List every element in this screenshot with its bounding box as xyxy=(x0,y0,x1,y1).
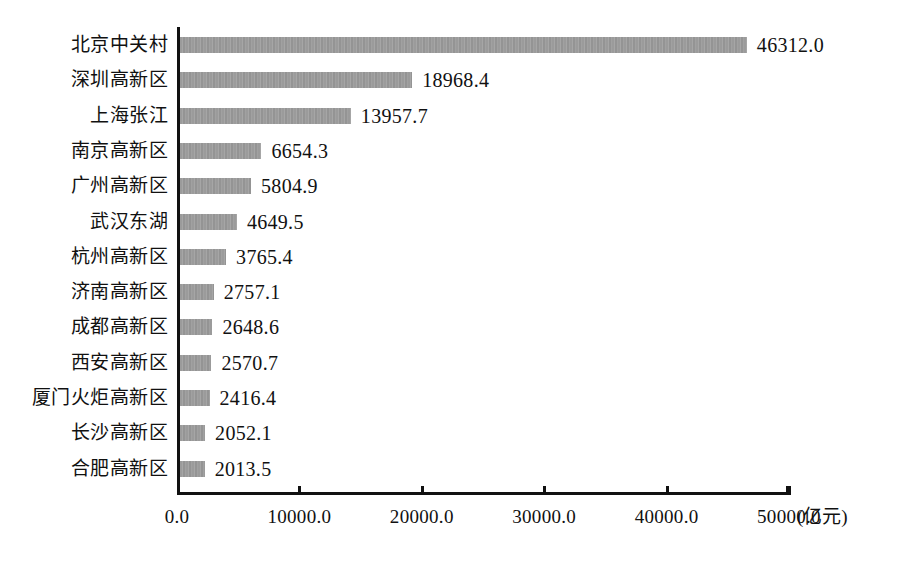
bar-value-label: 2757.1 xyxy=(224,277,281,307)
category-label: 长沙高新区 xyxy=(0,418,168,448)
bar-value-label: 2570.7 xyxy=(221,348,278,378)
category-label: 济南高新区 xyxy=(0,277,168,307)
bar-row: 广州高新区5804.9 xyxy=(0,171,904,201)
bar-value-label: 2052.1 xyxy=(215,418,272,448)
bar-row: 成都高新区2648.6 xyxy=(0,312,904,342)
bar-row: 北京中关村46312.0 xyxy=(0,30,904,60)
bar-row: 合肥高新区2013.5 xyxy=(0,454,904,484)
category-label: 厦门火炬高新区 xyxy=(0,383,168,413)
bar-value-label: 4649.5 xyxy=(247,207,304,237)
plot-area: 北京中关村46312.0深圳高新区18968.4上海张江13957.7南京高新区… xyxy=(0,0,904,566)
bar xyxy=(180,72,412,88)
bar xyxy=(180,284,214,300)
category-label: 广州高新区 xyxy=(0,171,168,201)
x-axis-tick xyxy=(421,486,424,495)
bar-value-label: 2013.5 xyxy=(215,454,272,484)
category-label: 北京中关村 xyxy=(0,30,168,60)
bar-value-label: 2648.6 xyxy=(222,312,279,342)
x-axis-tick-label: 30000.0 xyxy=(512,505,576,529)
x-axis-tick-label: 20000.0 xyxy=(390,505,454,529)
bar-row: 长沙高新区2052.1 xyxy=(0,418,904,448)
bar-chart: 北京中关村46312.0深圳高新区18968.4上海张江13957.7南京高新区… xyxy=(0,0,904,566)
category-label: 合肥高新区 xyxy=(0,454,168,484)
bar-row: 深圳高新区18968.4 xyxy=(0,65,904,95)
bar-row: 南京高新区6654.3 xyxy=(0,136,904,166)
bar-value-label: 18968.4 xyxy=(422,65,489,95)
bar-value-label: 3765.4 xyxy=(236,242,293,272)
bar xyxy=(180,178,251,194)
bar xyxy=(180,37,747,53)
bar xyxy=(180,319,212,335)
bar xyxy=(180,214,237,230)
bar-value-label: 2416.4 xyxy=(220,383,277,413)
bar-row: 杭州高新区3765.4 xyxy=(0,242,904,272)
bar xyxy=(180,425,205,441)
bar xyxy=(180,461,205,477)
bar xyxy=(180,143,261,159)
x-axis-tick xyxy=(666,486,669,495)
category-label: 杭州高新区 xyxy=(0,242,168,272)
category-label: 武汉东湖 xyxy=(0,207,168,237)
x-axis-tick xyxy=(543,486,546,495)
x-axis-tick-label: 40000.0 xyxy=(635,505,699,529)
bar-row: 厦门火炬高新区2416.4 xyxy=(0,383,904,413)
x-axis-line xyxy=(177,492,789,495)
category-label: 深圳高新区 xyxy=(0,65,168,95)
bar-row: 济南高新区2757.1 xyxy=(0,277,904,307)
bar xyxy=(180,108,351,124)
category-label: 南京高新区 xyxy=(0,136,168,166)
x-axis-tick xyxy=(788,486,791,495)
x-axis-tick xyxy=(298,486,301,495)
bar-row: 上海张江13957.7 xyxy=(0,101,904,131)
bar-value-label: 13957.7 xyxy=(361,101,428,131)
bar xyxy=(180,249,226,265)
x-axis-tick-label: 0.0 xyxy=(165,505,190,529)
category-label: 成都高新区 xyxy=(0,312,168,342)
bar-value-label: 6654.3 xyxy=(271,136,328,166)
bar-row: 武汉东湖4649.5 xyxy=(0,207,904,237)
bar-value-label: 46312.0 xyxy=(757,30,824,60)
category-label: 上海张江 xyxy=(0,101,168,131)
bar xyxy=(180,390,210,406)
x-axis-tick-label: 10000.0 xyxy=(267,505,331,529)
bar-value-label: 5804.9 xyxy=(261,171,318,201)
bar-row: 西安高新区2570.7 xyxy=(0,348,904,378)
bar xyxy=(180,355,211,371)
x-axis-unit-label: (亿元) xyxy=(797,505,848,529)
category-label: 西安高新区 xyxy=(0,348,168,378)
